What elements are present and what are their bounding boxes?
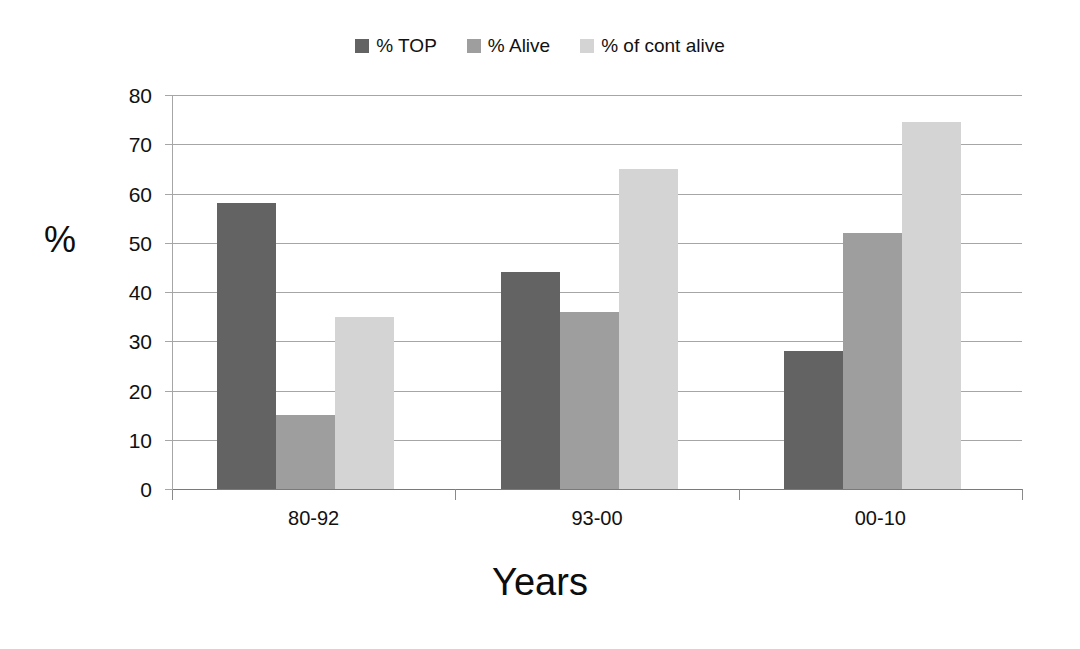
gridline — [172, 144, 1022, 145]
plot-area — [172, 95, 1022, 489]
y-axis-tick-label: 20 — [92, 381, 152, 402]
x-axis-category-label: 00-10 — [739, 508, 1022, 528]
bar-chart: % TOP% Alive% of cont alive 010203040506… — [0, 0, 1080, 649]
bar[interactable] — [217, 203, 276, 489]
y-axis-tick-label: 60 — [92, 184, 152, 205]
y-axis-tick — [165, 440, 173, 441]
legend-label: % of cont alive — [601, 36, 725, 55]
y-axis-tick-label: 10 — [92, 430, 152, 451]
y-axis-title: % — [44, 222, 76, 258]
bar[interactable] — [619, 169, 678, 489]
x-axis-tick — [1022, 489, 1023, 500]
bar[interactable] — [560, 312, 619, 489]
y-axis-tick-label: 40 — [92, 282, 152, 303]
bar[interactable] — [902, 122, 961, 489]
y-axis-tick-label: 0 — [92, 479, 152, 500]
legend-swatch-icon — [467, 39, 481, 53]
y-axis-tick-labels: 01020304050607080 — [90, 0, 152, 649]
x-axis-category-label: 93-00 — [455, 508, 738, 528]
y-axis-tick-label: 70 — [92, 134, 152, 155]
chart-legend: % TOP% Alive% of cont alive — [0, 36, 1080, 55]
y-axis-tick — [165, 243, 173, 244]
gridline — [172, 95, 1022, 96]
bar[interactable] — [276, 415, 335, 489]
y-axis-tick-label: 80 — [92, 85, 152, 106]
bar[interactable] — [501, 272, 560, 489]
legend-item[interactable]: % TOP — [355, 36, 437, 55]
y-axis-tick — [165, 95, 173, 96]
y-axis-tick — [165, 391, 173, 392]
x-axis-tick — [739, 489, 740, 500]
y-axis-tick — [165, 292, 173, 293]
y-axis-tick-label: 50 — [92, 233, 152, 254]
legend-swatch-icon — [580, 39, 594, 53]
y-axis-tick — [165, 489, 173, 490]
y-axis-tick-label: 30 — [92, 331, 152, 352]
x-axis-tick — [172, 489, 173, 500]
x-axis-line — [172, 489, 1022, 490]
gridline — [172, 194, 1022, 195]
bar[interactable] — [335, 317, 394, 489]
legend-item[interactable]: % Alive — [467, 36, 550, 55]
x-axis-tick — [455, 489, 456, 500]
y-axis-tick — [165, 144, 173, 145]
legend-swatch-icon — [355, 39, 369, 53]
bar[interactable] — [784, 351, 843, 489]
legend-item[interactable]: % of cont alive — [580, 36, 725, 55]
y-axis-tick — [165, 341, 173, 342]
x-axis-title: Years — [0, 563, 1080, 601]
x-axis-category-label: 80-92 — [172, 508, 455, 528]
y-axis-tick — [165, 194, 173, 195]
bar[interactable] — [843, 233, 902, 489]
legend-label: % TOP — [376, 36, 437, 55]
legend-label: % Alive — [488, 36, 550, 55]
